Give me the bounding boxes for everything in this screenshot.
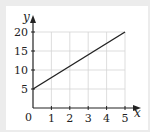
x-tick-label: 3 <box>85 112 92 125</box>
x-tick-label: 1 <box>48 112 55 125</box>
axes <box>30 15 141 111</box>
x-tick-label: 5 <box>122 112 129 125</box>
y-tick-label: 20 <box>14 26 28 39</box>
y-tick-label: 5 <box>21 83 28 96</box>
x-tick-label: 2 <box>66 112 73 125</box>
x-tick-label: 4 <box>103 112 110 125</box>
origin-label: 0 <box>25 111 32 124</box>
ticks <box>31 32 125 110</box>
x-axis-label: x <box>134 106 141 120</box>
y-tick-label: 10 <box>14 64 28 77</box>
y-axis-label: y <box>22 10 30 24</box>
line-chart: 123455101520 x y 0 <box>0 0 150 132</box>
data-series <box>33 32 125 89</box>
grid-lines <box>33 32 125 108</box>
y-axis-arrow-icon <box>30 15 36 23</box>
y-tick-label: 15 <box>14 45 28 58</box>
data-line <box>33 32 125 89</box>
